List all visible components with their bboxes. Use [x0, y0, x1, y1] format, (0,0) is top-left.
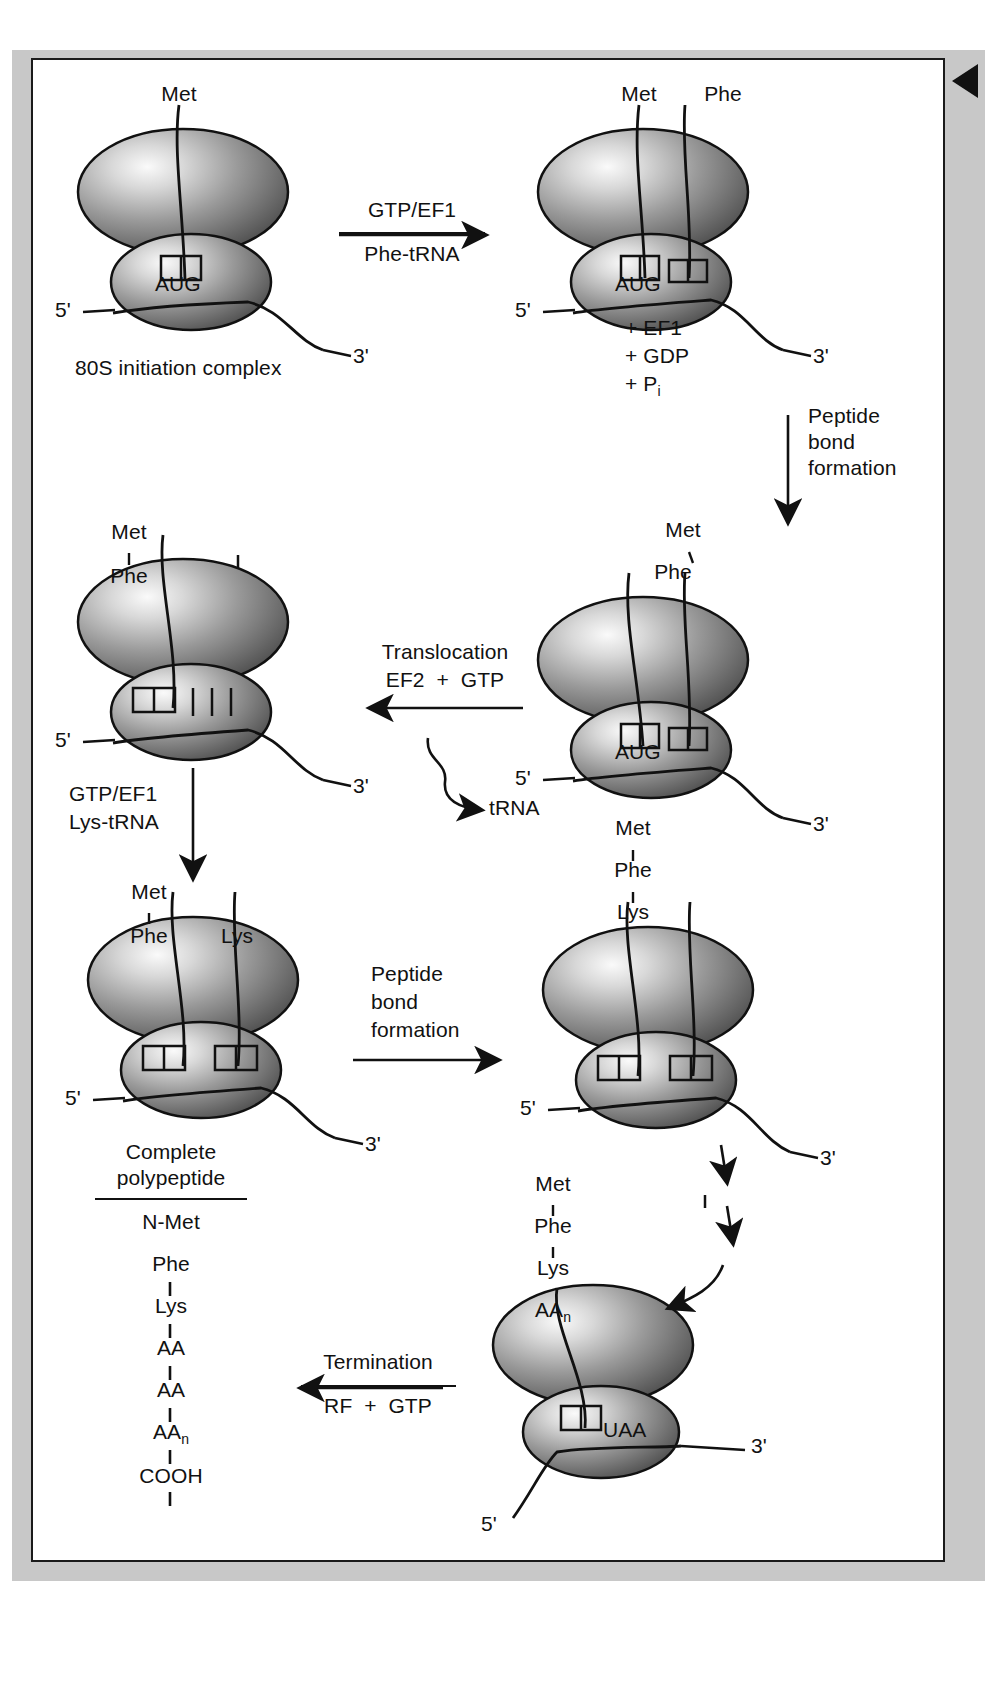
mrna-5prime-tick-4: [83, 740, 115, 742]
arrow-gtp-ef1-rule: [339, 232, 485, 234]
step2-byproduct-pi-subscript: i: [657, 383, 660, 399]
step7-aa-aan: AAn: [535, 1298, 571, 1329]
polypeptide-residue-5-text: AA: [153, 1420, 181, 1443]
step5-aa-met: Met: [131, 880, 166, 904]
step6-aa-lys: Lys: [617, 900, 649, 924]
polypeptide-residue-1: Phe: [152, 1252, 190, 1276]
step1-3prime: 3': [353, 344, 369, 368]
mrna-3prime-tick-4: [323, 780, 351, 786]
polypeptide-residue-4: AA: [157, 1378, 185, 1402]
step3-codon: AUG: [615, 740, 661, 764]
step1-codon: AUG: [155, 272, 201, 296]
step3-3prime: 3': [813, 812, 829, 836]
polypeptide-residue-0: N-Met: [142, 1210, 200, 1234]
arrow-peptide-1-line3: formation: [808, 456, 896, 480]
step1-caption: 80S initiation complex: [75, 356, 281, 380]
step4-aa-met: Met: [111, 520, 146, 544]
polypeptide-residue-2: Lys: [155, 1294, 187, 1318]
mrna-5prime-tick-3: [543, 778, 575, 780]
arrow-translocation-line2: EF2 + GTP: [386, 668, 504, 692]
arrow-peptide-2-line3: formation: [371, 1018, 459, 1042]
arrow-elongation-seg2: [727, 1206, 733, 1243]
arrow-peptide-2-line1: Peptide: [371, 962, 443, 986]
step2-aa-phe: Phe: [704, 82, 742, 106]
step6-3prime: 3': [820, 1146, 836, 1170]
polypeptide-heading-line2: polypeptide: [117, 1166, 226, 1190]
arrow-gtp-ef1-lys-line1: GTP/EF1: [69, 782, 157, 806]
step2-byproduct-ef1: + EF1: [625, 316, 682, 340]
step4-3prime: 3': [353, 774, 369, 798]
mrna-3prime-tick-1: [323, 350, 351, 356]
step5-5prime: 5': [65, 1086, 81, 1110]
step5-aa-lys: Lys: [221, 924, 253, 948]
ribosome-step6: [543, 902, 790, 1152]
polypeptide-residue-3: AA: [157, 1336, 185, 1360]
step7-aa-aan-subscript: n: [563, 1309, 571, 1325]
ribosome-step1: [78, 105, 323, 350]
step6-aa-phe: Phe: [614, 858, 652, 882]
arrow-gtp-ef1-lys-line2: Lys-tRNA: [69, 810, 159, 834]
step2-aa-met: Met: [621, 82, 656, 106]
mrna-5prime-tick-1: [83, 310, 115, 312]
mrna-3prime-tick-6: [790, 1152, 818, 1158]
arrow-gtp-ef1-above: GTP/EF1: [368, 198, 456, 222]
step2-codon: AUG: [615, 272, 661, 296]
page-corner-marker-triangle-icon: [952, 64, 978, 98]
arrow-peptide-1-line1: Peptide: [808, 404, 880, 428]
arrow-peptide-1-line2: bond: [808, 430, 855, 454]
polypeptide-terminus: COOH: [139, 1464, 202, 1488]
diagram-canvas: Met AUG 5' 3' 80S initiation complex GTP…: [33, 60, 947, 1560]
step7-aa-met: Met: [535, 1172, 570, 1196]
mrna-5prime-tick-2: [543, 310, 575, 312]
step1-5prime: 5': [55, 298, 71, 322]
arrow-gtp-ef1-below: Phe-tRNA: [364, 242, 459, 266]
step3-5prime: 5': [515, 766, 531, 790]
polypeptide-residue-5: AAn: [153, 1420, 189, 1451]
arrow-termination-below: RF + GTP: [324, 1394, 432, 1418]
step2-5prime: 5': [515, 298, 531, 322]
step7-aa-phe: Phe: [534, 1214, 572, 1238]
arrow-trna-release-shaft: [428, 738, 481, 810]
ribosome-step5: [88, 892, 335, 1138]
arrow-elongation-seg3: [669, 1265, 723, 1308]
step3-aa-met: Met: [665, 518, 700, 542]
step6-5prime: 5': [520, 1096, 536, 1120]
polypeptide-residue-5-subscript: n: [181, 1431, 189, 1447]
step2-byproduct-pi: + Pi: [625, 372, 661, 403]
arrow-trna-release-label: tRNA: [489, 796, 540, 820]
arrow-termination-rule: [301, 1385, 456, 1387]
step3-aa-phe: Phe: [654, 560, 692, 584]
step2-byproduct-gdp: + GDP: [625, 344, 689, 368]
arrow-termination-above: Termination: [323, 1350, 433, 1374]
step2-3prime: 3': [813, 344, 829, 368]
ribosome-step3: [538, 573, 783, 818]
mrna-3prime-tick-2: [783, 350, 811, 356]
mrna-3prime-tick-5: [335, 1138, 363, 1144]
step5-aa-phe: Phe: [130, 924, 168, 948]
step2-byproduct-pi-text: + P: [625, 372, 657, 395]
ribosome-step7: [493, 1285, 745, 1518]
polypeptide-heading-rule: [95, 1198, 247, 1200]
ribosome-step2: [538, 105, 783, 350]
mrna-5prime-tick-6: [548, 1108, 580, 1110]
arrow-elongation-seg1: [721, 1145, 727, 1182]
step7-codon: UAA: [603, 1418, 646, 1442]
step5-3prime: 3': [365, 1132, 381, 1156]
mrna-3prime-tick-3: [783, 818, 811, 824]
step4-aa-phe: Phe: [110, 564, 148, 588]
step7-3prime: 3': [751, 1434, 767, 1458]
step7-5prime: 5': [481, 1512, 497, 1536]
step4-5prime: 5': [55, 728, 71, 752]
step7-aa-aan-text: AA: [535, 1298, 563, 1321]
figure-frame: Met AUG 5' 3' 80S initiation complex GTP…: [31, 58, 945, 1562]
mrna-5prime-tick-5: [93, 1098, 125, 1100]
polypeptide-heading-line1: Complete: [126, 1140, 217, 1164]
arrow-translocation-line1: Translocation: [382, 640, 509, 664]
step1-aa-met: Met: [161, 82, 196, 106]
arrow-peptide-2-line2: bond: [371, 990, 418, 1014]
step7-aa-lys: Lys: [537, 1256, 569, 1280]
step6-aa-met: Met: [615, 816, 650, 840]
